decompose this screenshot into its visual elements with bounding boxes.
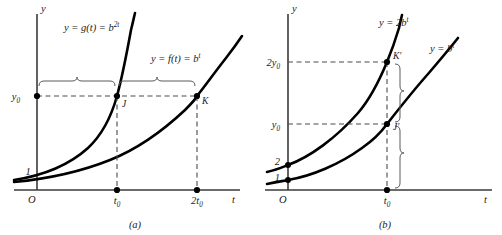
- panel-a-curve-f: [14, 36, 242, 182]
- panel-a-equation-g: y = g(t) = b2t: [63, 21, 120, 34]
- panel-b-t0-label: t0: [384, 195, 391, 209]
- panel-b-brace-lower: [395, 126, 404, 188]
- panel-b-point-kprime: [384, 59, 390, 65]
- panel-b-label-jprime: J′: [393, 122, 400, 132]
- panel-b-intercept-one-dot: [285, 177, 291, 183]
- panel-b-caption: (b): [379, 219, 392, 231]
- panel-a-label-j: J: [122, 99, 127, 109]
- panel-a-y-axis-label: y: [40, 3, 46, 14]
- panel-a-t0-label: t0: [114, 195, 121, 209]
- panel-a-brace-left: [39, 77, 115, 86]
- panel-b-2y0-label: 2y0: [266, 57, 280, 71]
- panel-a-point-y0: [34, 93, 40, 99]
- panel-b-intercept-one: 1: [275, 172, 280, 183]
- panel-a-tick-2t0: [194, 187, 200, 193]
- panel-b-intercept-two-dot: [285, 162, 291, 168]
- panel-b: y t O 2y0 y0 2 1 t0 K′ J′ y = 2bt: [265, 3, 492, 231]
- panel-b-y-axis-label: y: [291, 3, 297, 14]
- panel-b-intercept-two: 2: [275, 156, 281, 167]
- panel-a: y t O y0 1 t0 2t0 J K y = g(t) = b2t: [11, 3, 242, 231]
- panel-a-y0-label: y0: [11, 91, 21, 105]
- panel-a-2t0-label: 2t0: [191, 195, 203, 209]
- panel-b-equation-2bt: y = 2bt: [378, 16, 410, 28]
- panel-b-tick-t0: [384, 187, 390, 193]
- figure-container: y t O y0 1 t0 2t0 J K y = g(t) = b2t: [0, 0, 502, 235]
- panel-a-caption: (a): [129, 219, 142, 231]
- panel-b-t-axis-label: t: [484, 194, 488, 205]
- panel-a-point-j: [114, 93, 120, 99]
- panel-b-y0-label: y0: [271, 119, 281, 133]
- panel-b-point-jprime: [384, 121, 390, 127]
- panel-a-label-k: K: [201, 96, 209, 106]
- panel-a-intercept-one: 1: [25, 166, 30, 177]
- panel-a-t-axis-label: t: [232, 194, 236, 205]
- panel-a-tick-t0: [114, 187, 120, 193]
- panel-a-equation-f: y = f(t) = bt: [150, 52, 201, 65]
- panel-a-origin-label: O: [28, 194, 36, 205]
- panel-a-point-k: [194, 93, 200, 99]
- panel-b-equation-bt: y = bt: [429, 42, 455, 54]
- panel-b-label-kprime: K′: [392, 51, 402, 61]
- figure-svg: y t O y0 1 t0 2t0 J K y = g(t) = b2t: [0, 0, 502, 235]
- panel-b-origin-label: O: [279, 194, 287, 205]
- panel-a-brace-right: [119, 77, 195, 86]
